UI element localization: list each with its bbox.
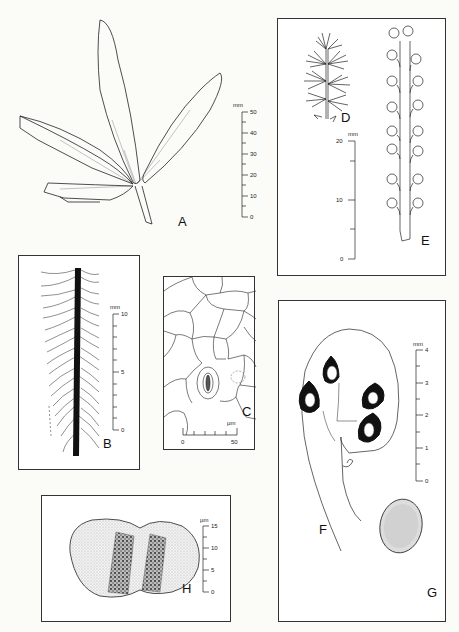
leaf-drawing [0,0,260,240]
scale-bar-e [348,141,355,259]
figure-label-g: G [427,586,437,599]
venation-drawing [19,256,141,471]
scale-tick: 5 [121,369,124,375]
female-inflorescence [387,26,423,241]
scale-bar-c [183,428,237,435]
figure-frame-b: mm 10 5 0 B [18,255,140,470]
scale-tick: 15 [211,523,218,529]
scale-unit-f: mm [413,341,423,347]
scale-tick: 10 [211,545,218,551]
scale-tick: 10 [121,311,128,317]
scale-bar-b [113,314,119,430]
scale-tick: 0 [250,214,253,220]
scale-tick: 0 [425,478,428,484]
scale-unit-b: mm [110,304,120,310]
scale-tick: 0 [340,256,343,262]
figure-label-b: B [103,437,112,450]
scale-tick: 20 [250,172,257,178]
figure-label-f: F [319,523,327,536]
scale-unit-e: mm [348,131,358,137]
figure-frame-fg: mm 4 3 2 1 0 F G [278,300,446,622]
scale-tick: 50 [250,109,257,115]
scale-bar-h [203,526,209,592]
figure-frame-c: C µm 0 50 [163,276,255,450]
scale-tick: 10 [250,193,257,199]
male-inflorescence [304,33,350,122]
epidermis-drawing [164,277,256,451]
scale-bar-a [242,112,248,217]
seeds [299,356,384,442]
scale-tick: 20 [336,138,343,144]
scale-tick: 3 [425,380,428,386]
scale-tick: 2 [425,412,428,418]
stoma [197,367,245,399]
scale-tick: 50 [231,439,238,445]
scale-tick: 30 [250,151,257,157]
figure-label-e: E [421,234,430,247]
figure-label-c: C [242,405,251,418]
pollen-drawing [42,496,232,623]
figure-a: mm 50 40 30 20 10 0 A [0,0,260,240]
scale-bar-f [416,350,423,481]
scale-unit-c: µm [227,420,235,426]
scale-tick: 1 [425,445,428,451]
scale-tick: 0 [181,439,184,445]
figure-frame-h: µm 15 10 5 0 H [41,495,231,622]
scale-tick: 5 [211,567,214,573]
figure-label-a: A [178,215,187,228]
figure-label-d: D [341,111,350,124]
scale-tick: 40 [250,130,257,136]
figure-label-h: H [182,582,191,595]
figure-frame-de: D E mm 20 10 0 [277,18,446,276]
scale-tick: 0 [211,589,214,595]
seed-g [376,496,427,556]
scale-unit-a: mm [233,102,243,108]
scale-unit-h: µm [200,517,208,523]
scale-tick: 0 [121,427,124,433]
scale-tick: 10 [336,197,343,203]
cone-scale-drawing [279,301,447,623]
scale-tick: 4 [425,347,428,353]
